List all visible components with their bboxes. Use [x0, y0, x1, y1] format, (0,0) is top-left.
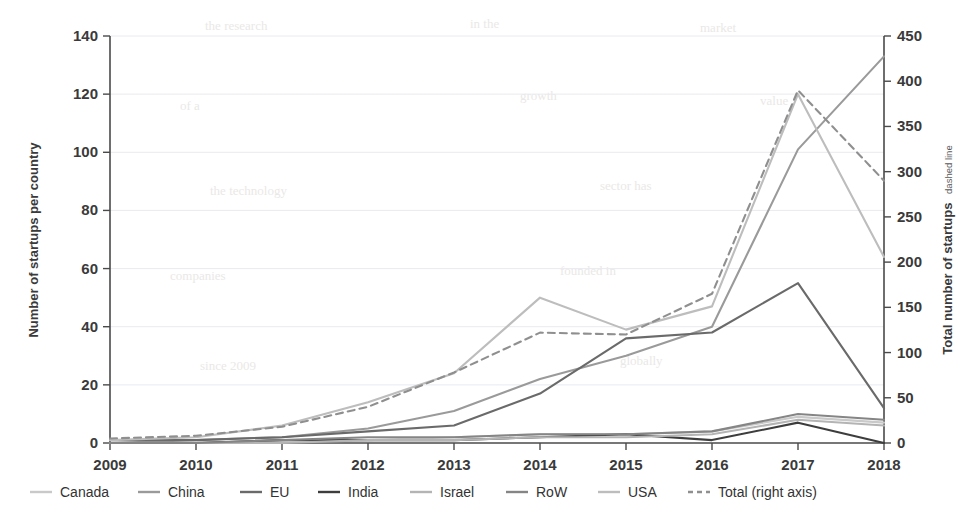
series-line-total-right-axis [110, 90, 884, 438]
legend-item-china[interactable]: China [138, 484, 205, 500]
right-axis-title: Total number of startups dashed line [940, 145, 955, 354]
x-tick-label-2011: 2011 [266, 456, 299, 473]
x-axis: 2009201020112012201320142015201620172018 [93, 443, 900, 473]
svg-text:the technology: the technology [210, 183, 287, 198]
legend-label-china: China [168, 484, 205, 500]
x-tick-label-2013: 2013 [437, 456, 470, 473]
ghost-background-text: the research in the market of a growth v… [170, 16, 788, 373]
svg-text:sector has: sector has [600, 178, 652, 193]
right-tick-label-400: 400 [897, 72, 922, 89]
left-axis-tick-labels: 020406080100120140 [73, 27, 98, 451]
right-tick-label-0: 0 [897, 434, 905, 451]
line-chart: the research in the market of a growth v… [0, 0, 980, 524]
svg-text:market: market [700, 20, 736, 35]
legend-item-total-right-axis[interactable]: Total (right axis) [688, 484, 817, 500]
svg-text:of a: of a [180, 98, 200, 113]
left-tick-label-60: 60 [81, 260, 98, 277]
legend-label-row: RoW [536, 484, 568, 500]
svg-text:growth: growth [520, 88, 557, 103]
left-tick-label-40: 40 [81, 318, 98, 335]
legend: CanadaChinaEUIndiaIsraelRoWUSATotal (rig… [30, 484, 817, 500]
x-tick-label-2010: 2010 [179, 456, 212, 473]
right-tick-label-50: 50 [897, 389, 914, 406]
right-axis-tick-labels: 050100150200250300350400450 [897, 27, 922, 451]
legend-item-canada[interactable]: Canada [30, 484, 109, 500]
x-tick-label-2009: 2009 [93, 456, 126, 473]
left-tick-label-80: 80 [81, 201, 98, 218]
left-tick-label-0: 0 [90, 434, 98, 451]
x-tick-label-2017: 2017 [781, 456, 814, 473]
x-tick-label-2016: 2016 [695, 456, 728, 473]
right-axis-title-sub: dashed line [943, 145, 954, 194]
x-tick-label-2014: 2014 [523, 456, 557, 473]
legend-label-total-right-axis: Total (right axis) [718, 484, 817, 500]
legend-label-usa: USA [628, 484, 657, 500]
left-axis-title: Number of startups per country [26, 142, 41, 338]
left-axis-ticks [103, 36, 110, 443]
svg-text:founded in: founded in [560, 263, 616, 278]
legend-label-israel: Israel [440, 484, 474, 500]
legend-item-israel[interactable]: Israel [410, 484, 474, 500]
legend-item-eu[interactable]: EU [240, 484, 289, 500]
legend-label-india: India [348, 484, 379, 500]
right-tick-label-450: 450 [897, 27, 922, 44]
right-axis-ticks [884, 36, 891, 443]
left-axis: 020406080100120140 Number of startups pe… [26, 27, 110, 451]
svg-text:in the: in the [470, 16, 499, 31]
right-tick-label-100: 100 [897, 344, 922, 361]
x-tick-label-2015: 2015 [609, 456, 642, 473]
legend-item-india[interactable]: India [318, 484, 379, 500]
right-axis-title-main: Total number of startups [940, 203, 955, 355]
right-tick-label-300: 300 [897, 163, 922, 180]
svg-text:value: value [760, 93, 788, 108]
left-tick-label-140: 140 [73, 27, 98, 44]
right-axis: 050100150200250300350400450 Total number… [884, 27, 955, 451]
chart-container: the research in the market of a growth v… [0, 0, 980, 524]
left-tick-label-120: 120 [73, 85, 98, 102]
legend-item-row[interactable]: RoW [506, 484, 568, 500]
legend-label-canada: Canada [60, 484, 109, 500]
legend-label-eu: EU [270, 484, 289, 500]
svg-text:companies: companies [170, 268, 226, 283]
right-tick-label-250: 250 [897, 208, 922, 225]
right-tick-label-350: 350 [897, 117, 922, 134]
left-tick-label-20: 20 [81, 376, 98, 393]
legend-item-usa[interactable]: USA [598, 484, 657, 500]
x-tick-label-2018: 2018 [867, 456, 900, 473]
svg-text:the research: the research [205, 18, 268, 33]
right-tick-label-150: 150 [897, 298, 922, 315]
x-axis-tick-labels: 2009201020112012201320142015201620172018 [93, 456, 900, 473]
svg-text:since 2009: since 2009 [200, 358, 256, 373]
series-line-usa [110, 94, 884, 440]
right-tick-label-200: 200 [897, 253, 922, 270]
left-tick-label-100: 100 [73, 143, 98, 160]
x-tick-label-2012: 2012 [351, 456, 384, 473]
